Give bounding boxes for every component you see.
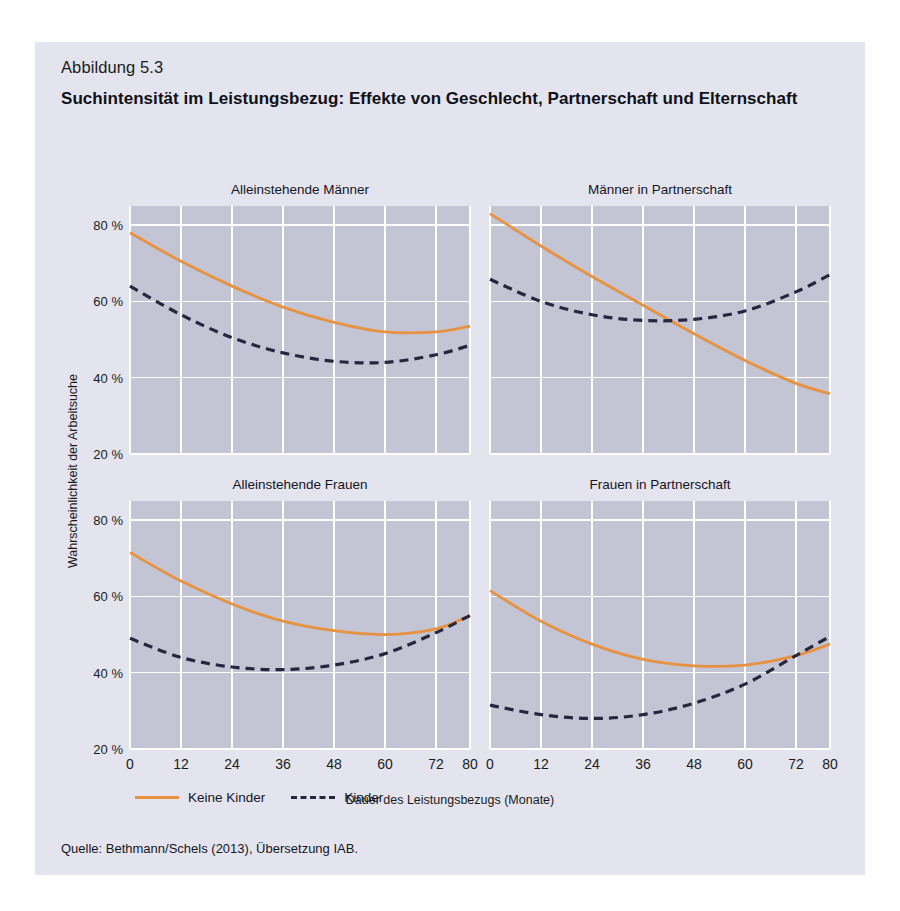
x-tick-label: 12 (533, 756, 549, 772)
y-tick-label: 80 % (93, 513, 123, 528)
plot-area (490, 206, 830, 454)
series-line-keine-kinder (130, 233, 470, 333)
x-tick-label: 36 (275, 756, 291, 772)
x-tick-label: 24 (224, 756, 240, 772)
x-tick-label: 60 (737, 756, 753, 772)
legend-swatch (135, 796, 179, 799)
legend-label: Keine Kinder (188, 790, 265, 805)
figure-number: Abbildung 5.3 (61, 58, 163, 77)
source-note: Quelle: Bethmann/Schels (2013), Übersetz… (61, 841, 358, 856)
x-tick-label: 36 (635, 756, 651, 772)
series-line-kinder (130, 615, 470, 669)
x-tick-label: 80 (822, 756, 838, 772)
x-tick-label: 48 (326, 756, 342, 772)
panel-title: Frauen in Partnerschaft (490, 477, 830, 492)
x-tick-label: 60 (377, 756, 393, 772)
plot-area: 20 %40 %60 %80 % (130, 206, 470, 454)
legend-label: Kinder (344, 790, 383, 805)
y-tick-label: 20 % (93, 447, 123, 462)
x-tick-label: 12 (173, 756, 189, 772)
series-line-keine-kinder (490, 591, 830, 667)
y-tick-label: 60 % (93, 294, 123, 309)
x-tick-label: 72 (788, 756, 804, 772)
series-line-kinder (130, 286, 470, 363)
series-layer (130, 206, 470, 454)
series-layer (490, 501, 830, 749)
plot-area: 012243648607280 (490, 501, 830, 749)
series-line-kinder (490, 636, 830, 718)
y-tick-label: 40 % (93, 665, 123, 680)
x-tick-label: 48 (686, 756, 702, 772)
y-tick-label: 60 % (93, 589, 123, 604)
y-tick-label: 80 % (93, 218, 123, 233)
x-tick-label: 24 (584, 756, 600, 772)
x-tick-label: 72 (428, 756, 444, 772)
y-axis-title: Wahrscheinlichkeit der Arbeitsuche (66, 301, 80, 641)
plot-area: 01224364860728020 %40 %60 %80 % (130, 501, 470, 749)
series-layer (490, 206, 830, 454)
series-line-keine-kinder (490, 214, 830, 394)
x-tick-label: 0 (126, 756, 134, 772)
figure-title: Suchintensität im Leistungsbezug: Effekt… (61, 89, 797, 109)
panel-title: Männer in Partnerschaft (490, 182, 830, 197)
figure-container: Abbildung 5.3 Suchintensität im Leistung… (35, 42, 865, 875)
legend-swatch (291, 796, 335, 799)
chart-area: Wahrscheinlichkeit der Arbeitsuche Allei… (35, 134, 865, 834)
legend-item: Kinder (291, 790, 383, 805)
series-line-keine-kinder (130, 553, 470, 635)
y-tick-label: 40 % (93, 370, 123, 385)
y-tick-label: 20 % (93, 742, 123, 757)
legend-item: Keine Kinder (135, 790, 265, 805)
legend: Keine KinderKinder (135, 790, 383, 805)
series-layer (130, 501, 470, 749)
x-tick-label: 80 (462, 756, 478, 772)
x-tick-label: 0 (486, 756, 494, 772)
panel-title: Alleinstehende Frauen (130, 477, 470, 492)
panel-title: Alleinstehende Männer (130, 182, 470, 197)
